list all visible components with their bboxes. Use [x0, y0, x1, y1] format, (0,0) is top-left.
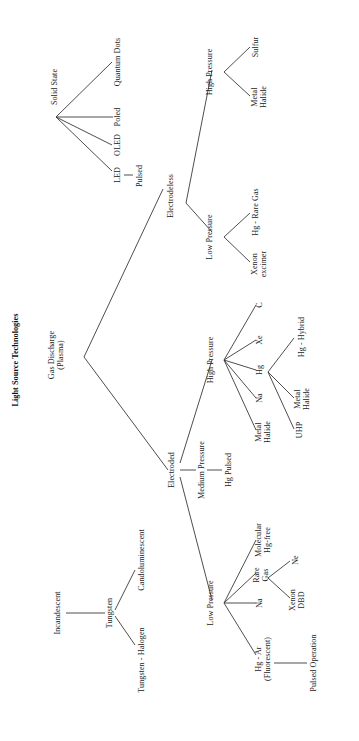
edge-ed-highpressure-to-na [224, 360, 256, 398]
node-tungsten-halogen[interactable]: Tungsten - Halogen [138, 627, 146, 692]
edge-solidstate-to-oled [56, 117, 112, 145]
node-pulsed[interactable]: Pulsed [136, 165, 144, 187]
node-hg-hybrid[interactable]: Hg - Hybrid [298, 317, 306, 357]
node-poled[interactable]: Poled [114, 108, 122, 127]
node-quantum-dots[interactable]: Quantum Dots [114, 38, 122, 86]
edge-gasdischarge-to-electroded [84, 357, 168, 470]
node-lp-na[interactable]: Na [256, 598, 264, 608]
edge-tungsten-to-candoluminescent [115, 570, 135, 610]
edge-solidstate-to-quantumdots [56, 62, 112, 117]
node-hp-na[interactable]: Na [256, 393, 264, 403]
page-title: Light Source Technologies [11, 314, 20, 407]
node-hg-metal-halide[interactable]: Metal Halide [294, 388, 311, 410]
node-el-low-pressure[interactable]: Low Pressure [206, 214, 214, 259]
node-hp-metal-halide[interactable]: Metal Halide [255, 421, 272, 443]
edge-raregas-to-xenondbd [268, 578, 290, 598]
node-rare-gas[interactable]: Rare Gas [253, 567, 270, 583]
node-hp-xe[interactable]: Xe [256, 335, 264, 345]
edge-ed-lowpressure-to-raregas [224, 573, 256, 603]
edge-el-lowpressure-to-hgraregas [224, 213, 250, 237]
node-medium-pressure[interactable]: Medium Pressure [198, 441, 206, 499]
node-oled[interactable]: OLED [114, 134, 122, 156]
node-ne[interactable]: Ne [292, 555, 300, 565]
node-hg-pulsed[interactable]: Hg Pulsed [225, 453, 233, 487]
node-hg-ar-fluorescent[interactable]: Hg - Ar (Fluorescent) [255, 637, 272, 681]
edge-solidstate-to-led [56, 117, 112, 171]
edge-ed-highpressure-to-xe [224, 340, 256, 360]
edge-gasdischarge-to-electrodeless [84, 189, 163, 357]
node-xenon-excimer[interactable]: Xenon excimer [251, 251, 268, 278]
node-electroded[interactable]: Electroded [168, 452, 176, 488]
edge-tungsten-to-halogen [115, 616, 135, 645]
edge-hg-to-hghybrid [268, 338, 294, 372]
edge-hg-to-metalhalide [268, 372, 294, 398]
node-hp-c[interactable]: C [256, 302, 264, 307]
edge-ed-lowpressure-to-hgar [224, 603, 256, 655]
edge-el-highpressure-to-sulfur [224, 47, 250, 72]
edge-ed-highpressure-to-metalhalide [224, 360, 256, 430]
node-incandescent[interactable]: Incandescent [54, 591, 62, 634]
node-tungsten[interactable]: Tungsten [106, 598, 114, 629]
node-el-high-pressure[interactable]: High Pressure [206, 49, 214, 96]
node-molecular-hg-free[interactable]: Molecular Hg-free [255, 523, 272, 557]
edge-el-highpressure-to-metalhalide [224, 72, 250, 96]
node-uhp[interactable]: UHP [296, 422, 304, 438]
node-xenon-dbd[interactable]: Xenon DBD [289, 589, 306, 611]
node-candoluminescent[interactable]: Candoluminescent [138, 529, 146, 591]
edge-ed-highpressure-to-c [224, 305, 256, 360]
diagram-canvas: Light Source Technologies Solid State LE… [0, 0, 359, 741]
node-ed-low-pressure[interactable]: Low Pressure [207, 580, 215, 625]
node-pulsed-operation[interactable]: Pulsed Operation [310, 634, 318, 691]
node-hp-hg[interactable]: Hg [256, 365, 264, 375]
node-led[interactable]: LED [114, 167, 122, 183]
node-ed-high-pressure[interactable]: High Pressure [207, 337, 215, 384]
node-sulfur[interactable]: Sulfur [252, 37, 260, 58]
edge-ed-lowpressure-to-molecular [224, 540, 256, 603]
node-solid-state[interactable]: Solid State [51, 69, 59, 105]
node-el-metal-halide[interactable]: Metal Halide [251, 86, 268, 108]
node-electrodeless[interactable]: Electrodeless [167, 174, 175, 218]
edge-el-lowpressure-to-xenonexcimer [224, 237, 250, 262]
node-gas-discharge[interactable]: Gas Discharge (Plasma) [48, 331, 65, 379]
edge-raregas-to-ne [268, 561, 290, 578]
edge-ed-highpressure-to-hg [224, 360, 256, 370]
node-hg-rare-gas[interactable]: Hg - Rare Gas [252, 188, 260, 236]
